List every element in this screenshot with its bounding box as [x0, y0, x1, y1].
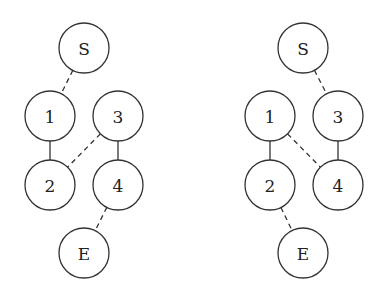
node-label: E — [78, 244, 90, 264]
node-label: S — [297, 39, 309, 59]
left-graph: S1324E — [25, 23, 143, 278]
node-4: 4 — [313, 160, 363, 210]
node-label: 3 — [333, 107, 344, 127]
node-S: S — [278, 23, 328, 73]
graph-diagram-canvas: S1324E S1324E — [0, 0, 381, 299]
node-3: 3 — [93, 91, 143, 141]
node-2: 2 — [25, 160, 75, 210]
node-label: 4 — [333, 176, 344, 196]
node-label: 1 — [265, 107, 276, 127]
node-label: E — [297, 244, 309, 264]
node-label: 4 — [113, 176, 124, 196]
right-graph: S1324E — [245, 23, 363, 278]
node-label: 2 — [265, 176, 276, 196]
node-E: E — [59, 228, 109, 278]
edge-4-E-dashed — [95, 207, 107, 230]
node-3: 3 — [313, 91, 363, 141]
edge-S-1-dashed — [61, 70, 73, 93]
node-S: S — [59, 23, 109, 73]
node-2: 2 — [245, 160, 295, 210]
node-4: 4 — [93, 160, 143, 210]
node-E: E — [278, 228, 328, 278]
edge-S-3-dashed — [314, 70, 326, 94]
node-1: 1 — [25, 91, 75, 141]
node-label: 1 — [45, 107, 56, 127]
node-1: 1 — [245, 91, 295, 141]
edge-2-E-dashed — [281, 207, 292, 230]
node-label: 3 — [113, 107, 124, 127]
edge-3-2-dashed — [68, 134, 101, 167]
node-label: S — [78, 39, 90, 59]
edge-1-4-dashed — [288, 134, 321, 167]
node-label: 2 — [45, 176, 56, 196]
